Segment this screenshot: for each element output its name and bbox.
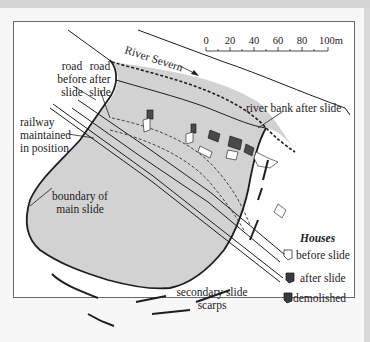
road-after-label-3: slide <box>89 86 111 98</box>
road-after-label-2: after <box>89 73 110 85</box>
railway-label-3: in position <box>20 142 69 155</box>
legend-label-before-slide: before slide <box>296 249 350 261</box>
boundary-label-2: main slide <box>56 203 104 215</box>
landslide-map: 0 20 40 60 80 100m River Severn road bef… <box>0 0 370 342</box>
boundary-label-1: boundary of <box>52 190 108 203</box>
road-before-label-1: road <box>62 60 83 72</box>
legend-icon-after-slide <box>286 273 294 283</box>
scale-tick-40: 40 <box>249 35 260 46</box>
road-after-label-1: road <box>90 60 111 72</box>
scale-tick-100m: 100m <box>319 35 343 46</box>
scale-tick-0: 0 <box>203 35 208 46</box>
legend-title: Houses <box>299 232 336 244</box>
railway-label-1: railway <box>20 116 55 129</box>
road-before-label-2: before <box>57 73 86 85</box>
scale-tick-20: 20 <box>225 35 236 46</box>
scale-tick-60: 60 <box>273 35 284 46</box>
legend-icon-demolished <box>284 293 292 303</box>
legend-label-after-slide: after slide <box>300 272 346 284</box>
scarps-label-1: secondary slide <box>176 286 247 299</box>
scale-tick-80: 80 <box>297 35 308 46</box>
scarps-label-2: scarps <box>198 299 227 312</box>
legend-label-demolished: demolished <box>293 292 346 304</box>
railway-label-2: maintained <box>20 129 71 141</box>
road-before-label-3: slide <box>61 86 83 98</box>
river-bank-label: river bank after slide <box>246 102 341 114</box>
